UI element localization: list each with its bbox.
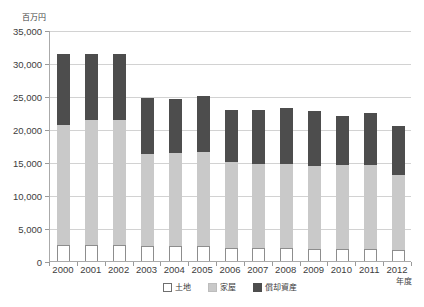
bar-segment-asset (280, 108, 293, 164)
bar-segment-asset (85, 54, 98, 120)
x-tick-label: 2001 (80, 264, 101, 275)
bar-group[interactable] (280, 108, 293, 261)
plot-area (49, 31, 411, 262)
bar-segment-land (169, 246, 182, 261)
x-axis-title: 年度 (396, 275, 412, 286)
bar-segment-house (113, 120, 126, 245)
x-tick-label: 2009 (303, 264, 324, 275)
y-tick-label: 15,000 (13, 158, 42, 169)
asset-swatch (253, 283, 262, 292)
bar-segment-land (308, 249, 321, 261)
bar-segment-house (141, 154, 154, 246)
bar-segment-asset (113, 54, 126, 119)
bar-segment-land (280, 248, 293, 261)
x-tick-label: 2003 (136, 264, 157, 275)
bar-segment-house (336, 165, 349, 249)
bar-segment-land (141, 246, 154, 261)
x-tick-label: 2002 (108, 264, 129, 275)
x-tick-label: 2005 (192, 264, 213, 275)
bar-segment-land (225, 248, 238, 261)
x-tick-label: 2011 (359, 264, 379, 275)
legend-item[interactable]: 償却資産 (253, 283, 297, 292)
bar-segment-asset (252, 110, 265, 164)
bar-segment-land (252, 248, 265, 261)
bar-group[interactable] (85, 54, 98, 261)
bar-segment-house (57, 125, 70, 244)
y-axis: 05,00010,00015,00020,00025,00030,00035,0… (0, 0, 49, 307)
bar-segment-land (364, 249, 377, 261)
legend-label: 土地 (175, 284, 191, 292)
bar-group[interactable] (308, 111, 321, 261)
x-tick-label: 2010 (331, 264, 352, 275)
bar-segment-house (197, 152, 210, 246)
bar-segment-land (336, 249, 349, 261)
x-tick-label: 2006 (219, 264, 240, 275)
bar-segment-asset (225, 110, 238, 162)
bar-segment-asset (169, 99, 182, 153)
bar-segment-asset (308, 111, 321, 166)
bar-segment-asset (197, 96, 210, 152)
bar-segment-house (225, 162, 238, 248)
y-tick-label: 25,000 (13, 92, 42, 103)
bar-segment-asset (392, 126, 405, 176)
bar-group[interactable] (225, 110, 238, 261)
bar-group[interactable] (252, 110, 265, 261)
bar-group[interactable] (364, 113, 377, 261)
x-axis-labels: 2000200120022003200420052006200720082009… (49, 264, 411, 278)
x-tick-label: 2012 (386, 264, 407, 275)
legend-label: 家屋 (220, 284, 236, 292)
house-swatch (208, 283, 217, 292)
bar-segment-house (169, 153, 182, 245)
bars-container (50, 31, 411, 261)
x-tick-label: 2008 (275, 264, 296, 275)
bar-group[interactable] (141, 98, 154, 261)
bar-group[interactable] (392, 126, 405, 261)
bar-segment-land (57, 245, 70, 261)
bar-segment-house (280, 164, 293, 248)
legend-label: 償却資産 (265, 284, 297, 292)
x-tick-label: 2000 (52, 264, 73, 275)
x-tick-mark (411, 262, 412, 266)
bar-segment-asset (57, 54, 70, 125)
chart-legend: 土地家屋償却資産 (163, 283, 297, 292)
y-tick-label: 20,000 (13, 125, 42, 136)
legend-item[interactable]: 家屋 (208, 283, 236, 292)
y-tick-label: 0 (37, 257, 42, 268)
bar-segment-house (364, 165, 377, 249)
bar-segment-asset (336, 116, 349, 165)
bar-segment-land (85, 245, 98, 261)
x-tick-label: 2004 (164, 264, 185, 275)
bar-group[interactable] (169, 99, 182, 261)
y-tick-label: 5,000 (18, 224, 42, 235)
legend-item[interactable]: 土地 (163, 283, 191, 292)
bar-group[interactable] (197, 96, 210, 261)
bar-segment-house (252, 164, 265, 248)
bar-segment-land (113, 245, 126, 261)
land-swatch (163, 283, 172, 292)
bar-segment-house (392, 175, 405, 250)
bar-segment-land (197, 246, 210, 261)
x-tick-label: 2007 (247, 264, 268, 275)
bar-segment-house (308, 166, 321, 249)
bar-group[interactable] (113, 54, 126, 261)
y-tick-label: 30,000 (13, 59, 42, 70)
bar-group[interactable] (57, 54, 70, 261)
y-tick-label: 10,000 (13, 191, 42, 202)
bar-segment-asset (364, 113, 377, 165)
bar-group[interactable] (336, 116, 349, 261)
y-tick-label: 35,000 (13, 26, 42, 37)
bar-segment-land (392, 250, 405, 261)
bar-segment-asset (141, 98, 154, 154)
bar-segment-house (85, 120, 98, 245)
stacked-bar-chart: 百万円 05,00010,00015,00020,00025,00030,000… (0, 0, 424, 307)
